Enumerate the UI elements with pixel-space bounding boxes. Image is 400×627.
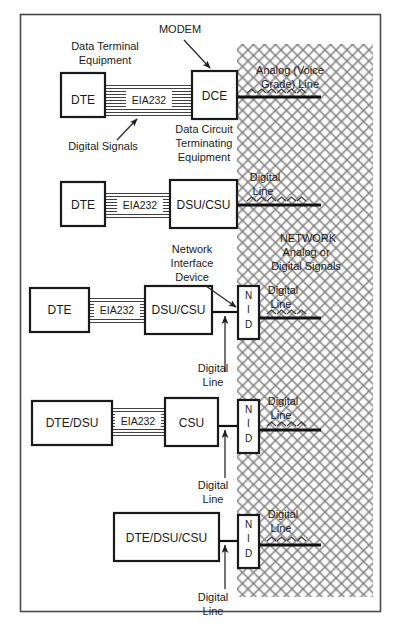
device-label-dte-row1: DTE	[71, 93, 95, 107]
device-label-dsucsu-row3: DSU/CSU	[151, 303, 205, 317]
label-digital-line-row3-word1: Digital	[268, 284, 299, 296]
label-digital-line-below-row5-word2: Line	[203, 605, 224, 617]
label-digital-line-row5-word2: Line	[271, 522, 292, 534]
network-label-line1: NETWORK	[280, 232, 337, 244]
label-analog-line1: Analog (Voice	[256, 64, 324, 76]
nid-letter-d-row4: D	[245, 433, 252, 444]
device-label-dtedsu-row4: DTE/DSU	[46, 416, 99, 430]
network-label-line2: Analog or	[282, 246, 329, 258]
device-label-dtedsucsu-row5: DTE/DSU/CSU	[126, 531, 207, 545]
network-label-line3: Digital Signals	[271, 260, 341, 272]
leader-digital-signals	[117, 119, 137, 140]
nid-letter-n-row4: N	[245, 404, 252, 415]
diagram-canvas: EIA232 DTE DCE Data Terminal Equipment M…	[0, 0, 400, 627]
eia232-cable-row3: EIA232	[89, 297, 145, 323]
cable-label-row4: EIA232	[121, 415, 156, 427]
nid-letter-n-row3: N	[245, 290, 252, 301]
label-dce-line2: Terminating	[176, 137, 233, 149]
device-label-csu-row4: CSU	[179, 416, 204, 430]
label-digital-line-below-row3-word1: Digital	[198, 362, 229, 374]
label-dte-line2: Equipment	[79, 54, 132, 66]
label-digital-line-row3-word2: Line	[271, 298, 292, 310]
cable-label-row3: EIA232	[100, 304, 135, 316]
label-digital-line-below-row5-word1: Digital	[198, 591, 229, 603]
label-digital-line-row4-word1: Digital	[268, 395, 299, 407]
label-digital-line-row2-word2: Line	[253, 185, 274, 197]
label-dce-line3: Equipment	[178, 151, 231, 163]
eia232-cable-row2: EIA232	[104, 192, 170, 218]
nid-letter-d-row5: D	[245, 548, 252, 559]
leader-modem	[184, 40, 210, 68]
label-digital-line-below-row3-word2: Line	[203, 376, 224, 388]
label-digital-signals: Digital Signals	[68, 140, 138, 152]
device-label-dte-row2: DTE	[71, 198, 95, 212]
diagram-svg: EIA232 DTE DCE Data Terminal Equipment M…	[0, 0, 400, 627]
cable-label-row1: EIA232	[132, 94, 167, 106]
nid-letter-i-row5: I	[247, 533, 250, 544]
label-nid-line3: Device	[175, 271, 209, 283]
label-digital-line-row2-word1: Digital	[250, 171, 281, 183]
device-label-dsucsu-row2: DSU/CSU	[176, 198, 230, 212]
label-digital-line-row4-word2: Line	[271, 409, 292, 421]
nid-letter-d-row3: D	[245, 319, 252, 330]
label-nid-line1: Network	[172, 243, 213, 255]
eia232-cable-row4: EIA232	[112, 407, 165, 437]
nid-letter-i-row4: I	[247, 418, 250, 429]
label-dce-line1: Data Circuit	[175, 123, 232, 135]
label-digital-line-row5-word1: Digital	[268, 508, 299, 520]
nid-letter-n-row5: N	[245, 519, 252, 530]
label-modem: MODEM	[159, 23, 201, 35]
device-label-dce-row1: DCE	[202, 89, 227, 103]
label-digital-line-below-row4-word1: Digital	[198, 479, 229, 491]
label-dte-line1: Data Terminal	[71, 40, 139, 52]
eia232-cable-row1: EIA232	[104, 84, 192, 117]
label-nid-line2: Interface	[171, 257, 214, 269]
nid-letter-i-row3: I	[247, 304, 250, 315]
label-analog-line2: Grade) Line	[261, 78, 319, 90]
device-label-dte-row3: DTE	[48, 303, 72, 317]
cable-label-row2: EIA232	[123, 199, 158, 211]
label-digital-line-below-row4-word2: Line	[203, 493, 224, 505]
